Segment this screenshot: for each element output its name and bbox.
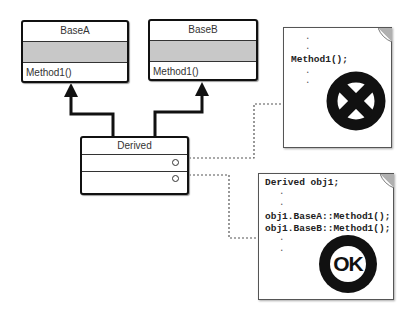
class-basea-attributes: [23, 42, 127, 63]
class-baseb-operation: Method1(): [150, 62, 256, 77]
code-ellipsis: .: [305, 66, 310, 76]
code-ellipsis: .: [279, 187, 284, 197]
note-link-resolved: [181, 175, 258, 238]
code-ellipsis: .: [279, 244, 284, 254]
inheritance-line-baseb: [155, 95, 202, 137]
note-ambiguous-call: . . Method1(); . .: [283, 27, 392, 148]
code-ellipsis: .: [279, 198, 284, 208]
class-derived[interactable]: Derived: [80, 136, 189, 195]
class-derived-row-2: [82, 172, 187, 188]
code-line-basea-call: obj1.BaseA::Method1();: [265, 211, 390, 222]
code-line-method-call: Method1();: [291, 54, 348, 65]
class-baseb[interactable]: BaseB Method1(): [148, 19, 258, 81]
class-basea-operation: Method1(): [23, 63, 127, 78]
page-fold-icon: [378, 28, 392, 42]
ok-label: OK: [333, 252, 363, 276]
code-ellipsis: .: [305, 32, 310, 42]
code-ellipsis: .: [305, 42, 310, 52]
port-circle-icon: [172, 159, 179, 166]
code-line-declaration: Derived obj1;: [265, 177, 339, 188]
note-resolved-call: Derived obj1; . . obj1.BaseA::Method1();…: [258, 173, 394, 300]
class-derived-row-1: [82, 155, 187, 172]
class-derived-name: Derived: [82, 138, 187, 155]
class-basea-name: BaseA: [23, 22, 127, 42]
class-baseb-name: BaseB: [150, 21, 256, 41]
inheritance-line-basea: [71, 96, 113, 137]
class-baseb-attributes: [150, 41, 256, 62]
ok-badge-icon: OK: [319, 235, 377, 293]
code-ellipsis: .: [279, 233, 284, 243]
inheritance-arrow-baseb-icon: [195, 82, 209, 96]
error-x-icon: [324, 69, 388, 133]
inheritance-arrow-basea-icon: [64, 83, 78, 97]
code-ellipsis: .: [305, 76, 310, 86]
page-fold-icon: [380, 174, 394, 188]
port-circle-icon: [172, 175, 179, 182]
class-basea[interactable]: BaseA Method1(): [21, 20, 129, 83]
